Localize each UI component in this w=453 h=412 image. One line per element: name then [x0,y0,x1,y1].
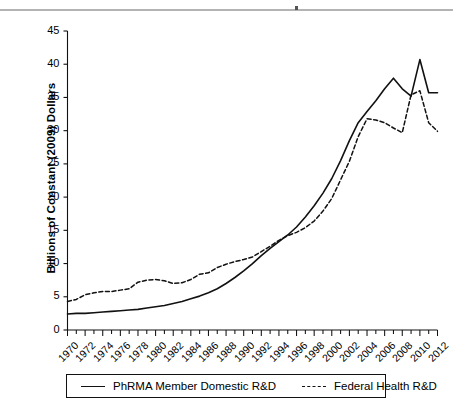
y-tick-label: 5 [22,289,60,301]
y-tick-label: 30 [22,123,60,135]
chart-legend: PhRMA Member Domestic R&D Federal Health… [66,374,386,398]
legend-line-dashed-icon [302,386,326,387]
series-line-phrma [68,60,438,314]
data-series [68,60,438,314]
axes-lines [68,31,438,330]
y-tick-label: 25 [22,156,60,168]
y-tick-label: 40 [22,57,60,69]
y-tick-label: 35 [22,90,60,102]
legend-item-federal: Federal Health R&D [302,375,437,397]
y-tick-label: 45 [22,24,60,36]
y-tick-label: 10 [22,256,60,268]
legend-item-phrma: PhRMA Member Domestic R&D [81,375,276,397]
legend-label-federal: Federal Health R&D [334,380,437,392]
y-tick-label: 0 [22,323,60,335]
y-tick-label: 20 [22,190,60,202]
legend-label-phrma: PhRMA Member Domestic R&D [113,380,276,392]
legend-line-solid-icon [81,386,105,387]
series-line-federal [68,91,438,302]
chart-figure: Billions of Constant (2009) Dollars 0510… [0,0,453,412]
y-tick-label: 15 [22,223,60,235]
